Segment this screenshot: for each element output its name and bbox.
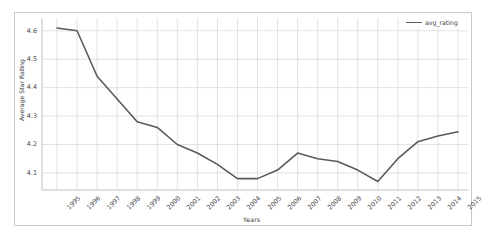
y-tick-label: 4.2 (12, 141, 37, 147)
legend-line-swatch (406, 22, 422, 23)
x-axis-title: Years (243, 216, 260, 223)
line-chart-plot (0, 0, 488, 249)
vertical-gridlines (57, 18, 458, 190)
legend-label-avg-rating: avg_rating (425, 19, 458, 26)
chart-container: 4.14.24.34.44.54.6 199519961997199819992… (0, 0, 488, 249)
horizontal-gridlines (42, 31, 468, 173)
legend: avg_rating (404, 16, 460, 28)
y-axis-title: Average Star Rating (19, 59, 25, 121)
axis-lines (42, 18, 468, 190)
y-tick-label: 4.6 (12, 28, 37, 34)
y-tick-label: 4.1 (12, 170, 37, 176)
